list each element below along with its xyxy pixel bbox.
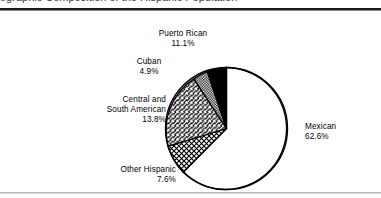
slice-label-mexican: Mexican 62.6% <box>305 122 375 142</box>
slice-label-other-hispanic-name: Other Hispanic <box>66 165 176 175</box>
clipped-heading-text: ographic Composition of the Hispanic Pop… <box>0 0 237 3</box>
slice-label-cuban-value: 4.9% <box>108 67 190 77</box>
slice-label-other-hispanic-value: 7.6% <box>66 175 176 185</box>
pie-svg <box>164 66 289 191</box>
slice-label-puerto-rican-value: 11.1% <box>136 39 230 49</box>
slice-label-mexican-value: 62.6% <box>305 132 375 142</box>
slice-label-central-south-american: Central and South American 13.8% <box>60 95 166 125</box>
slice-label-mexican-name: Mexican <box>305 122 375 132</box>
pie-chart: Puerto Rican 11.1% Cuban 4.9% Central an… <box>0 11 381 191</box>
slice-label-cuban-name: Cuban <box>108 57 190 67</box>
slice-label-central-line1: Central and <box>60 95 166 105</box>
slice-label-puerto-rican-name: Puerto Rican <box>136 29 230 39</box>
slice-label-central-line2: South American <box>60 105 166 115</box>
slice-label-central-value: 13.8% <box>60 115 166 125</box>
clipped-heading: ographic Composition of the Hispanic Pop… <box>0 0 381 7</box>
pie-graphic <box>164 66 289 191</box>
chart-page: ographic Composition of the Hispanic Pop… <box>0 0 381 198</box>
bottom-rule-shadow <box>0 193 381 194</box>
slice-label-cuban: Cuban 4.9% <box>108 57 190 77</box>
slice-label-puerto-rican: Puerto Rican 11.1% <box>136 29 230 49</box>
slice-label-other-hispanic: Other Hispanic 7.6% <box>66 165 176 185</box>
